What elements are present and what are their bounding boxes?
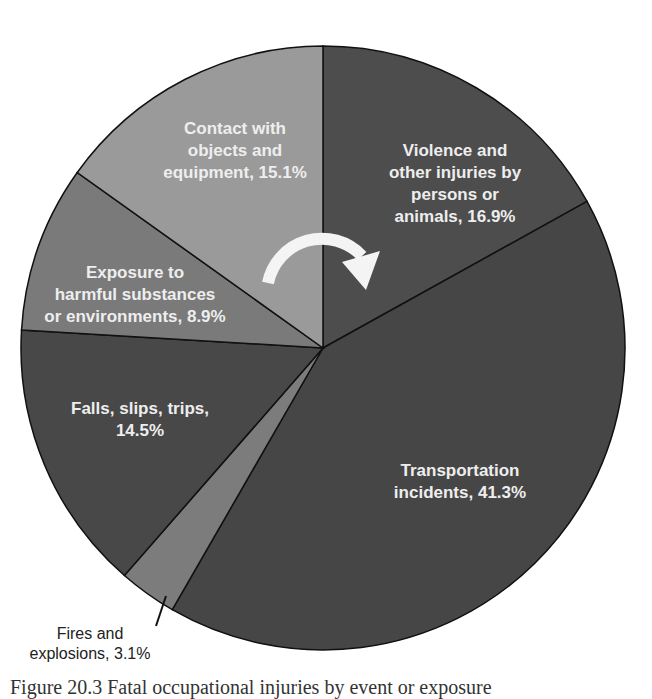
label-violence: Violence and other injuries by persons o… [360,140,550,228]
label-exposure: Exposure to harmful substances or enviro… [20,262,250,328]
label-fires: Fires and explosions, 3.1% [15,624,165,664]
label-contact: Contact with objects and equipment, 15.1… [140,118,330,184]
figure-caption: Figure 20.3 Fatal occupational injuries … [10,676,492,699]
label-falls: Falls, slips, trips, 14.5% [40,398,240,442]
label-transport: Transportation incidents, 41.3% [360,460,560,504]
